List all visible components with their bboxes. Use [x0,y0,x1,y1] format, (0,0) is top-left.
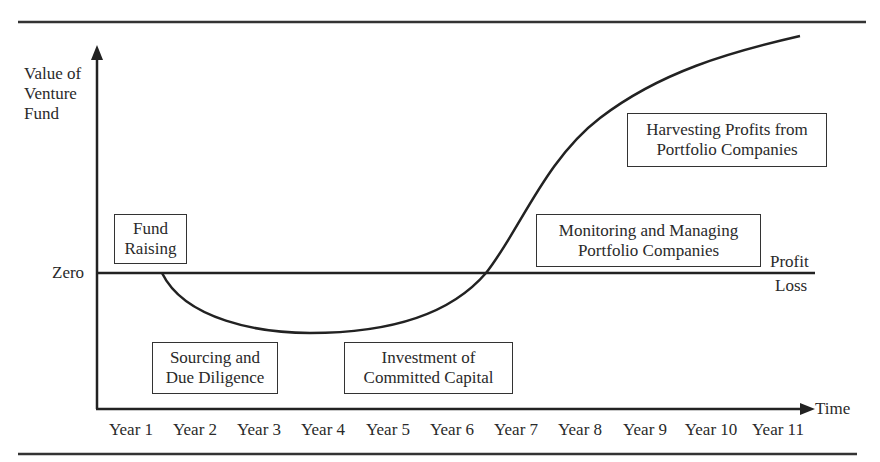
fund-value-curve [162,36,800,333]
stage-label: Harvesting Profits from [628,120,826,140]
y-axis-label-line: Value of [24,64,81,84]
x-tick-year-10: Year 10 [685,420,738,440]
x-tick-year-7: Year 7 [494,420,538,440]
y-axis-label-line: Venture [24,84,81,104]
x-tick-year-9: Year 9 [623,420,667,440]
y-axis-label-line: Fund [24,104,81,124]
x-tick-year-8: Year 8 [558,420,602,440]
stage-label: Due Diligence [153,368,277,388]
loss-label: Loss [775,276,807,296]
stage-label: Investment of [345,348,512,368]
stage-label: Portfolio Companies [537,241,760,261]
x-tick-year-6: Year 6 [430,420,474,440]
x-tick-year-11: Year 11 [752,420,804,440]
stage-fund-raising: Fund Raising [114,214,187,264]
zero-label: Zero [52,263,84,283]
profit-label: Profit [770,252,809,272]
x-tick-year-2: Year 2 [173,420,217,440]
x-tick-year-1: Year 1 [109,420,153,440]
x-axis-arrow-icon [800,403,815,415]
y-axis-label: Value of Venture Fund [24,64,81,124]
stage-harvesting: Harvesting Profits from Portfolio Compan… [627,113,827,167]
stage-label: Fund [115,219,186,239]
x-axis-label: Time [815,399,850,419]
x-tick-year-5: Year 5 [366,420,410,440]
stage-sourcing: Sourcing and Due Diligence [152,342,278,394]
x-tick-year-3: Year 3 [237,420,281,440]
stage-label: Monitoring and Managing [537,221,760,241]
stage-label: Portfolio Companies [628,140,826,160]
stage-monitoring: Monitoring and Managing Portfolio Compan… [536,214,761,267]
y-axis-arrow-icon [91,45,103,60]
stage-investment: Investment of Committed Capital [344,342,513,394]
stage-label: Raising [115,239,186,259]
stage-label: Committed Capital [345,368,512,388]
stage-label: Sourcing and [153,348,277,368]
x-tick-year-4: Year 4 [301,420,345,440]
